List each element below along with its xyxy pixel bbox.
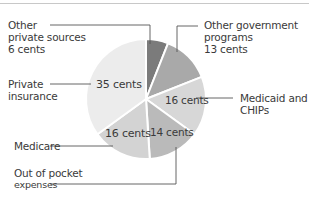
label-other-private: Other private sources 6 cents <box>8 19 86 55</box>
label-line: Other government <box>204 19 298 31</box>
label-line: expenses <box>14 179 82 191</box>
slice-label-private: 35 cents <box>96 79 142 91</box>
label-line: Other <box>8 19 86 31</box>
label-other-government: Other government programs 13 cents <box>204 19 298 55</box>
label-medicare: Medicare <box>14 140 60 152</box>
label-line: insurance <box>8 90 58 102</box>
label-line: CHIPs <box>240 104 308 116</box>
label-line: private sources <box>8 31 86 43</box>
label-value: 13 cents <box>204 43 298 55</box>
label-line: Medicaid and <box>240 92 308 104</box>
label-line: Private <box>8 78 58 90</box>
slice-label-medicare: 16 cents <box>105 128 151 140</box>
label-line: Out of pocket <box>14 167 82 179</box>
label-out-of-pocket: Out of pocket expenses <box>14 167 82 191</box>
label-value: 6 cents <box>8 43 86 55</box>
leader-other-government <box>177 26 198 52</box>
label-line: programs <box>204 31 298 43</box>
slice-label-medicaid: 16 cents <box>165 94 209 106</box>
slice-label-out-of-pocket: 14 cents <box>150 126 194 138</box>
label-line: Medicare <box>14 140 60 152</box>
label-private-insurance: Private insurance <box>8 78 58 102</box>
label-medicaid: Medicaid and CHIPs <box>240 92 308 116</box>
